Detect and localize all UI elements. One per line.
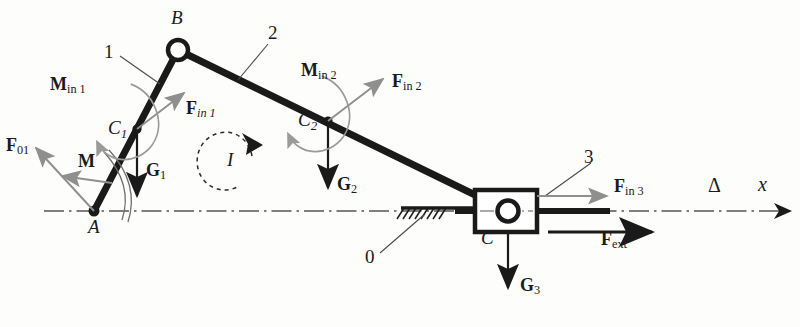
label-link-0: 0 — [365, 247, 375, 266]
label-link-3: 3 — [584, 147, 594, 166]
centerline-axis — [44, 203, 792, 219]
leader-link1 — [120, 56, 160, 84]
label-center-C2: C2 — [298, 110, 317, 133]
label-rotation-I: I — [227, 150, 233, 169]
label-vector-M: M — [78, 152, 95, 173]
label-vector-G2: G2 — [337, 175, 357, 196]
label-axis-delta: Δ — [708, 175, 721, 195]
mechanism-drawing — [0, 0, 800, 327]
rotation-arrowhead — [242, 133, 263, 155]
label-vector-G3: G3 — [520, 276, 540, 297]
label-vector-Min2: Min 2 — [301, 61, 337, 82]
label-vector-Min1: Min 1 — [50, 75, 86, 96]
figure-canvas: A B C C1 C2 1 2 3 0 F01 M G1 Min 1 Fin 1… — [0, 0, 800, 327]
label-vector-Fext: Fext — [601, 230, 627, 251]
joint-C-pin — [498, 201, 519, 222]
label-axis-x: x — [758, 174, 767, 194]
label-vector-F01: F01 — [6, 136, 29, 157]
leader-link0 — [380, 214, 425, 253]
vector-M — [62, 176, 112, 183]
label-link-2: 2 — [268, 23, 278, 42]
leader-link2 — [238, 44, 268, 80]
label-vector-Fin3: Fin 3 — [614, 177, 644, 198]
label-joint-A: A — [88, 217, 100, 236]
label-vector-Fin2: Fin 2 — [392, 72, 422, 93]
label-joint-B: B — [171, 8, 183, 27]
label-link-1: 1 — [104, 42, 114, 61]
label-vector-G1: G1 — [146, 161, 166, 182]
label-vector-Fin1: Fin 1 — [186, 99, 216, 120]
joint-B-revolute — [168, 40, 188, 60]
label-center-C1: C1 — [108, 118, 127, 141]
label-joint-C: C — [481, 228, 494, 247]
leader-link3 — [545, 163, 591, 196]
